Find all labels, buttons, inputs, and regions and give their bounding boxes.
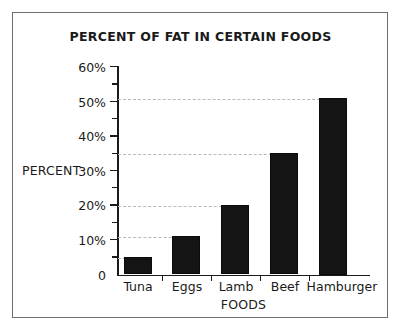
y-minor-tick-25: [112, 187, 118, 188]
y-tick-label-0: 0: [62, 268, 106, 283]
bar-beef: [270, 153, 298, 274]
y-tick-label-60: 60%: [62, 60, 106, 75]
x-category-label-hamburger: Hamburger: [304, 279, 380, 294]
gridline-beef: [118, 154, 292, 155]
bar-hamburger: [319, 98, 347, 275]
x-category-label-lamb: Lamb: [212, 279, 260, 294]
chart-page: PERCENT OF FAT IN CERTAIN FOODS 60% 50% …: [0, 0, 401, 332]
y-tick-label-50: 50%: [62, 95, 106, 110]
bar-tuna: [124, 257, 152, 274]
y-tick-label-10: 10%: [62, 233, 106, 248]
y-minor-tick-55: [112, 83, 118, 84]
chart-title: PERCENT OF FAT IN CERTAIN FOODS: [0, 29, 401, 44]
x-category-label-tuna: Tuna: [114, 279, 162, 294]
y-major-tick-50: [110, 101, 118, 102]
y-major-tick-10: [110, 239, 118, 240]
y-minor-tick-15: [112, 222, 118, 223]
gridline-hamburger: [118, 99, 340, 100]
x-axis-line: [117, 275, 370, 277]
y-major-tick-60: [110, 66, 118, 67]
bar-lamb: [221, 205, 249, 274]
x-category-label-beef: Beef: [261, 279, 309, 294]
y-major-tick-40: [110, 135, 118, 136]
y-major-tick-30: [110, 170, 118, 171]
y-tick-label-20: 20%: [62, 198, 106, 213]
y-minor-tick-45: [112, 118, 118, 119]
x-category-label-eggs: Eggs: [163, 279, 211, 294]
x-axis-title: FOODS: [117, 297, 370, 312]
y-axis-title: PERCENT: [22, 163, 81, 178]
y-tick-label-40: 40%: [62, 129, 106, 144]
bar-eggs: [172, 236, 200, 274]
y-major-tick-20: [110, 204, 118, 205]
